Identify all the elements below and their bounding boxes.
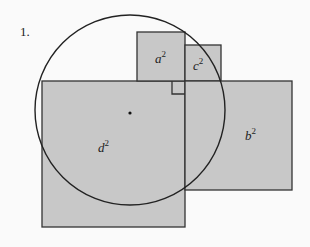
center-point [128,111,131,114]
diagram-canvas: 1. a2 c2 b2 d2 [0,0,310,247]
figure-number: 1. [20,24,30,39]
square-d [42,81,185,227]
